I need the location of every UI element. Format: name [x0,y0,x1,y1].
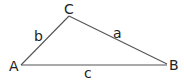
side-c-label: c [84,65,92,81]
side-b-line [21,16,69,65]
vertex-a-label: A [9,58,19,74]
vertex-c-label: C [64,1,74,17]
vertex-b-label: B [169,57,179,73]
triangle-canvas: A B C b a c [0,0,184,82]
triangle-diagram: A B C b a c [0,0,184,82]
side-b-label: b [34,28,43,44]
side-a-label: a [113,25,122,41]
